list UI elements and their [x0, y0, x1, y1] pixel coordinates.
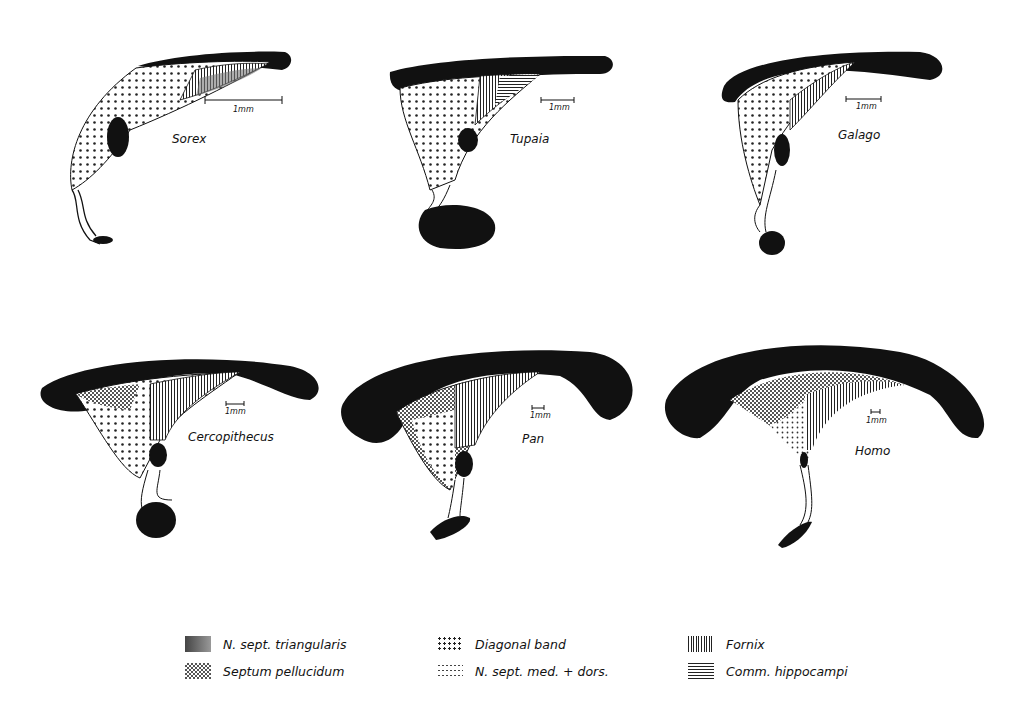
horizontal-lines-swatch-icon	[688, 663, 714, 679]
scale-label: 1mm	[233, 105, 254, 114]
panel-cercopithecus: 1mm Cercopithecus	[41, 359, 319, 538]
species-label: Galago	[838, 128, 880, 142]
panel-galago: 1mm Galago	[722, 52, 943, 255]
panel-sorex: 1mm Sorex	[71, 52, 292, 244]
scale-label: 1mm	[549, 103, 570, 112]
panel-pan: 1mm Pan	[341, 350, 633, 540]
species-label: Sorex	[172, 132, 207, 146]
figure-canvas: 1mm Sorex 1mm Tupaia 1mm Galago	[0, 0, 1020, 717]
checker-swatch-icon	[185, 663, 211, 679]
scale-label: 1mm	[530, 411, 551, 420]
vertical-lines-swatch-icon	[688, 636, 714, 652]
scale-label: 1mm	[856, 102, 877, 111]
legend-item-n-sept-med-dors: N. sept. med. + dors.	[437, 663, 609, 679]
legend-item-septum-pellucidum: Septum pellucidum	[185, 663, 344, 679]
species-label: Homo	[855, 444, 890, 458]
species-label: Cercopithecus	[188, 430, 274, 444]
dots-swatch-icon	[437, 636, 463, 652]
scale-label: 1mm	[225, 407, 246, 416]
legend-item-fornix: Fornix	[688, 636, 765, 652]
species-label: Tupaia	[510, 132, 549, 146]
panel-tupaia: 1mm Tupaia	[390, 56, 613, 249]
fine-dots-swatch-icon	[437, 663, 463, 679]
panel-homo: 1mm Homo	[665, 345, 984, 548]
legend-item-comm-hippocampi: Comm. hippocampi	[688, 663, 848, 679]
scale-label: 1mm	[866, 416, 887, 425]
legend-item-diagonal-band: Diagonal band	[437, 636, 566, 652]
gradient-swatch-icon	[185, 636, 211, 652]
legend-item-triangularis: N. sept. triangularis	[185, 636, 347, 652]
species-label: Pan	[522, 432, 544, 446]
